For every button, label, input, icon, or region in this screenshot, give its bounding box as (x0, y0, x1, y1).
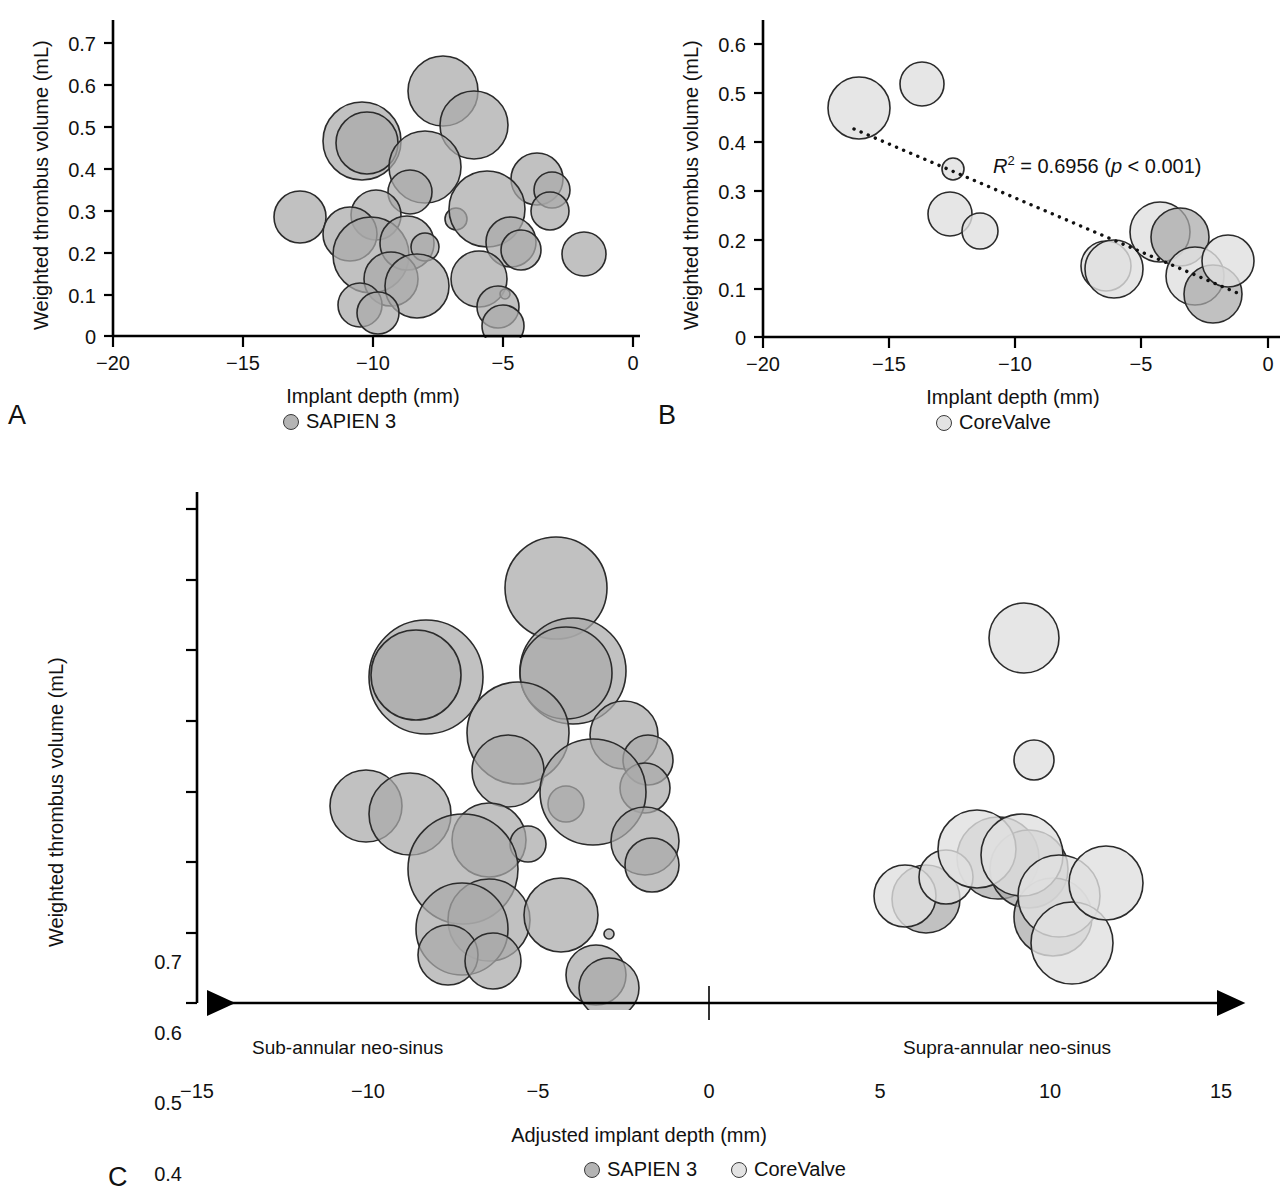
panel-b-y-tick-5: 0.1 (698, 279, 746, 302)
panel-c: Weighted thrombus volume (mL) (0, 452, 1285, 1203)
panel-a-x-tick-0: −20 (83, 352, 143, 375)
panel-c-x-tick-1: −10 (338, 1080, 398, 1103)
sapien-circle-icon (584, 1162, 600, 1178)
panel-b-x-tick-3: −5 (1111, 353, 1171, 376)
panel-b-letter: B (658, 400, 676, 431)
panel-b-x-tick-0: −20 (733, 353, 793, 376)
panel-c-x-tick-3: 0 (679, 1080, 739, 1103)
panel-c-y-tick-3: 0.4 (130, 1163, 182, 1186)
panel-b-x-tick-1: −15 (859, 353, 919, 376)
panel-c-y-tick-0: 0.7 (130, 951, 182, 974)
panel-b-y-tick-3: 0.3 (698, 181, 746, 204)
r-symbol: R (993, 155, 1007, 177)
panel-c-region-label-left: Sub-annular neo-sinus (252, 1037, 443, 1059)
legend-label-corevalve: CoreValve (754, 1158, 846, 1181)
panel-b-y-tick-1: 0.5 (698, 83, 746, 106)
panel-b-x-ticks (763, 337, 1268, 348)
panel-a-y-tick-5: 0.2 (48, 243, 96, 266)
panel-b-y-tick-6: 0 (698, 327, 746, 350)
panel-b-y-tick-2: 0.4 (698, 132, 746, 155)
panel-b-x-tick-4: 0 (1238, 353, 1285, 376)
panel-b-y-ticks (754, 44, 763, 337)
panel-c-plot (0, 452, 1285, 1032)
panel-b-r-squared-annotation: R2 = 0.6956 (p < 0.001) (993, 153, 1202, 178)
panel-c-x-axis-title: Adjusted implant depth (mm) (489, 1124, 789, 1147)
figure-root: Weighted thrombus volume (mL) (0, 0, 1285, 1203)
corevalve-circle-icon (936, 415, 952, 431)
legend-entry-sapien3: SAPIEN 3 (283, 410, 396, 433)
p-symbol: p (1111, 155, 1122, 177)
panel-a-x-tick-2: −10 (343, 352, 403, 375)
panel-c-y-tick-1: 0.6 (130, 1022, 182, 1045)
legend-entry-corevalve: CoreValve (936, 411, 1051, 434)
r-exponent: 2 (1007, 153, 1014, 168)
panel-c-x-tick-4: 5 (850, 1080, 910, 1103)
panel-a-plot (0, 0, 650, 370)
legend-label-corevalve: CoreValve (959, 411, 1051, 434)
legend-label-sapien3: SAPIEN 3 (607, 1158, 697, 1181)
corevalve-circle-icon (731, 1162, 747, 1178)
panel-b-y-tick-4: 0.2 (698, 230, 746, 253)
panel-c-x-tick-0: −15 (167, 1080, 227, 1103)
legend-label-sapien3: SAPIEN 3 (306, 410, 396, 433)
panel-b-y-tick-0: 0.6 (698, 34, 746, 57)
panel-b-bubbles (828, 62, 1254, 323)
panel-b-x-axis-title: Implant depth (mm) (863, 386, 1163, 409)
panel-a-x-tick-3: −5 (473, 352, 533, 375)
panel-a: Weighted thrombus volume (mL) (0, 0, 650, 445)
panel-c-x-tick-5: 10 (1020, 1080, 1080, 1103)
panel-a-x-axis-title: Implant depth (mm) (223, 385, 523, 408)
panel-b: Weighted thrombus volume (mL) (648, 0, 1285, 445)
r-value: = 0.6956 ( (1015, 155, 1111, 177)
panel-c-x-tick-6: 15 (1191, 1080, 1251, 1103)
sapien-circle-icon (283, 414, 299, 430)
panel-a-x-ticks (113, 336, 633, 347)
panel-a-y-tick-6: 0.1 (48, 285, 96, 308)
panel-a-legend: SAPIEN 3 (283, 410, 396, 433)
panel-c-y-ticks (186, 509, 197, 1003)
panel-a-y-tick-7: 0 (48, 326, 96, 349)
panel-b-x-tick-2: −10 (985, 353, 1045, 376)
panel-a-y-ticks (104, 43, 113, 336)
panel-a-y-tick-1: 0.6 (48, 75, 96, 98)
panel-b-legend: CoreValve (936, 411, 1051, 434)
panel-a-y-tick-3: 0.4 (48, 159, 96, 182)
panel-c-bubbles (330, 537, 1143, 1018)
panel-a-y-tick-0: 0.7 (48, 33, 96, 56)
legend-entry-sapien3: SAPIEN 3 (584, 1158, 697, 1181)
panel-c-legend: SAPIEN 3 CoreValve (584, 1158, 846, 1181)
panel-c-region-label-right: Supra-annular neo-sinus (903, 1037, 1111, 1059)
panel-a-y-tick-4: 0.3 (48, 201, 96, 224)
panel-a-x-tick-1: −15 (213, 352, 273, 375)
panel-c-letter: C (108, 1162, 128, 1193)
legend-entry-corevalve: CoreValve (731, 1158, 846, 1181)
panel-a-y-tick-2: 0.5 (48, 117, 96, 140)
panel-a-bubbles (274, 56, 606, 347)
panel-c-x-tick-2: −5 (508, 1080, 568, 1103)
p-value: < 0.001) (1122, 155, 1202, 177)
panel-a-letter: A (8, 400, 26, 431)
